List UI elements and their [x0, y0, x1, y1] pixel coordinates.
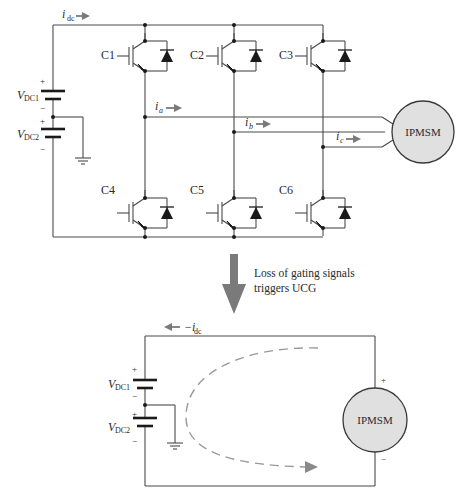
svg-text:DC1: DC1: [115, 383, 130, 392]
igbt-c5-icon: [206, 190, 263, 236]
idc-label: i: [62, 7, 65, 21]
svg-text:−: −: [40, 103, 45, 113]
igbt-c3-icon: [295, 33, 352, 79]
motor-label-top: IPMSM: [405, 126, 441, 138]
ucg-diagram: IPMSM i dc C1 C2 C3 C4 C5 C6 i a i b i c…: [0, 0, 470, 504]
switch-label-c1: C1: [101, 48, 115, 62]
arrow-right-icon: [305, 461, 318, 473]
svg-text:+: +: [132, 409, 137, 419]
top-circuit: IPMSM i dc C1 C2 C3 C4 C5 C6 i a i b i c…: [17, 7, 454, 239]
motor-label-bottom: IPMSM: [357, 414, 393, 426]
switch-label-c3: C3: [279, 48, 293, 62]
ic-label: i: [336, 129, 339, 143]
svg-text:a: a: [159, 106, 163, 115]
ground-icon: [75, 150, 91, 164]
transition-arrow-icon: [222, 254, 246, 314]
svg-text:−: −: [132, 391, 137, 401]
svg-text:+: +: [381, 375, 386, 385]
svg-text:−: −: [381, 454, 386, 464]
svg-text:+: +: [132, 364, 137, 374]
igbt-c1-icon: [117, 33, 174, 79]
arrow-right-icon: [174, 104, 182, 112]
battery-vdc2-icon: [133, 418, 157, 426]
svg-text:dc: dc: [67, 14, 75, 23]
svg-text:DC1: DC1: [24, 94, 39, 103]
bottom-circuit: + − V DC1 + − V DC2 −i dc IPMSM + −: [108, 320, 407, 486]
transition-caption-line2: triggers UCG: [254, 282, 316, 295]
battery-vdc1-icon: [41, 91, 65, 99]
battery-vdc2-icon: [41, 129, 65, 137]
igbt-c4-icon: [117, 190, 174, 236]
ground-icon: [167, 435, 183, 449]
svg-text:b: b: [249, 122, 253, 131]
svg-text:−: −: [132, 436, 137, 446]
switch-label-c2: C2: [190, 48, 204, 62]
arrow-right-icon: [76, 12, 90, 20]
igbt-c6-icon: [295, 190, 352, 236]
svg-text:DC2: DC2: [24, 133, 39, 142]
svg-text:DC2: DC2: [115, 426, 130, 435]
ucg-current-path: [186, 348, 318, 467]
arrow-left-icon: [164, 323, 180, 331]
svg-text:+: +: [40, 76, 45, 86]
arrow-right-icon: [353, 135, 361, 143]
switch-label-c5: C5: [190, 183, 204, 197]
switch-label-c6: C6: [279, 183, 293, 197]
svg-text:c: c: [340, 136, 344, 145]
igbt-c2-icon: [206, 33, 263, 79]
arrow-right-icon: [263, 120, 271, 128]
switch-label-c4: C4: [101, 183, 115, 197]
battery-vdc1-icon: [133, 380, 157, 388]
svg-text:+: +: [40, 116, 45, 126]
ia-label: i: [155, 99, 158, 113]
transition-caption-line1: Loss of gating signals: [254, 267, 355, 280]
ib-label: i: [245, 115, 248, 129]
svg-text:dc: dc: [194, 327, 202, 336]
svg-text:−: −: [40, 144, 45, 154]
